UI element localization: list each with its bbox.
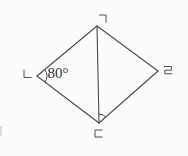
kite-diagram: [0, 0, 188, 156]
angle-value-label: 80°: [48, 66, 69, 81]
angle-arc-bottom: [99, 114, 106, 117]
edge-right-top: [97, 26, 158, 71]
diagonal-top-bottom: [97, 26, 99, 123]
vertex-label-digeut-icon: [95, 130, 102, 137]
geometry-figure: 80°: [0, 0, 188, 156]
vertex-label-giyeok-icon: [100, 15, 107, 22]
scan-edge-artifact: [0, 126, 2, 136]
vertex-label-rieul-icon: [165, 67, 173, 74]
vertex-label-nieun-icon: [24, 70, 31, 78]
edge-bottom-right: [99, 71, 158, 123]
edge-left-bottom: [37, 76, 99, 123]
